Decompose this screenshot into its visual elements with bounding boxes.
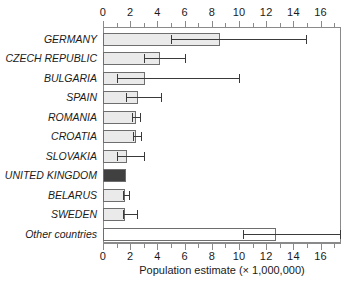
error-bar-cap bbox=[171, 35, 172, 44]
axis-tick-label: 16 bbox=[314, 6, 327, 18]
category-label: BELARUS bbox=[0, 186, 97, 206]
error-bar-cap bbox=[243, 230, 244, 239]
error-bar-line bbox=[126, 97, 161, 98]
error-bar-cap bbox=[141, 132, 142, 141]
bar bbox=[103, 130, 136, 143]
axis-tick-label: 10 bbox=[233, 6, 246, 18]
bar bbox=[103, 169, 126, 182]
chart-row: CROATIA bbox=[0, 127, 357, 147]
axis-tick-label: 16 bbox=[314, 250, 327, 262]
axis-tick-label: 12 bbox=[260, 250, 273, 262]
axis-tick bbox=[171, 244, 172, 248]
axis-tick bbox=[334, 23, 335, 27]
chart-row: SLOVAKIA bbox=[0, 147, 357, 167]
axis-tick-label: 8 bbox=[209, 6, 215, 18]
axis-tick bbox=[212, 21, 213, 27]
axis-tick bbox=[321, 21, 322, 27]
error-bar-cap bbox=[123, 210, 124, 219]
axis-tick-label: 14 bbox=[287, 6, 300, 18]
chart-row: ROMANIA bbox=[0, 108, 357, 128]
axis-tick-label: 2 bbox=[127, 6, 133, 18]
axis-tick bbox=[253, 23, 254, 27]
error-bar-cap bbox=[117, 152, 118, 161]
error-bar-cap bbox=[117, 74, 118, 83]
error-bar-cap bbox=[161, 93, 162, 102]
axis-tick bbox=[239, 21, 240, 27]
error-bar-line bbox=[117, 78, 239, 79]
error-bar-line bbox=[132, 117, 140, 118]
category-label: SPAIN bbox=[0, 88, 97, 108]
error-bar-cap bbox=[144, 152, 145, 161]
category-label: CZECH REPUBLIC bbox=[0, 49, 97, 69]
axis-tick-label: 6 bbox=[181, 250, 187, 262]
error-bar-cap bbox=[306, 35, 307, 44]
axis-tick bbox=[157, 21, 158, 27]
error-bar-cap bbox=[137, 210, 138, 219]
chart-row: BELARUS bbox=[0, 186, 357, 206]
error-bar-line bbox=[133, 136, 141, 137]
category-label: UNITED KINGDOM bbox=[0, 166, 97, 186]
category-label: BULGARIA bbox=[0, 69, 97, 89]
axis-tick-label: 8 bbox=[209, 250, 215, 262]
axis-tick bbox=[307, 23, 308, 27]
axis-tick bbox=[266, 21, 267, 27]
bar bbox=[103, 208, 125, 221]
axis-tick-label: 10 bbox=[233, 250, 246, 262]
error-bar-line bbox=[117, 156, 144, 157]
category-label: SLOVAKIA bbox=[0, 147, 97, 167]
error-bar-line bbox=[123, 214, 137, 215]
population-estimate-bar-chart: 0246810121416 0246810121416 GERMANYCZECH… bbox=[0, 0, 357, 285]
axis-tick-label: 6 bbox=[181, 6, 187, 18]
error-bar-cap bbox=[133, 132, 134, 141]
error-bar-cap bbox=[132, 113, 133, 122]
axis-tick bbox=[253, 244, 254, 248]
chart-row: SWEDEN bbox=[0, 205, 357, 225]
axis-tick-label: 2 bbox=[127, 250, 133, 262]
chart-row: Other countries bbox=[0, 225, 357, 245]
axis-tick bbox=[130, 21, 131, 27]
category-label: ROMANIA bbox=[0, 108, 97, 128]
axis-tick bbox=[171, 23, 172, 27]
axis-tick bbox=[334, 244, 335, 248]
category-label: CROATIA bbox=[0, 127, 97, 147]
bar bbox=[103, 111, 136, 124]
axis-tick-label: 4 bbox=[154, 6, 160, 18]
category-label: SWEDEN bbox=[0, 205, 97, 225]
axis-tick-label: 0 bbox=[100, 6, 106, 18]
axis-tick bbox=[280, 23, 281, 27]
axis-tick bbox=[225, 23, 226, 27]
bar bbox=[103, 189, 125, 202]
chart-row: UNITED KINGDOM bbox=[0, 166, 357, 186]
axis-tick-label: 0 bbox=[100, 250, 106, 262]
category-label: Other countries bbox=[0, 225, 97, 245]
axis-tick bbox=[225, 244, 226, 248]
error-bar-cap bbox=[185, 54, 186, 63]
error-bar-line bbox=[144, 58, 185, 59]
axis-tick bbox=[103, 21, 104, 27]
error-bar-line bbox=[243, 234, 340, 235]
axis-tick bbox=[198, 244, 199, 248]
error-bar-cap bbox=[340, 230, 341, 239]
error-bar-cap bbox=[144, 54, 145, 63]
error-bar-cap bbox=[239, 74, 240, 83]
error-bar-cap bbox=[140, 113, 141, 122]
axis-tick bbox=[307, 244, 308, 248]
error-bar-line bbox=[171, 39, 306, 40]
axis-tick-label: 4 bbox=[154, 250, 160, 262]
axis-tick bbox=[117, 244, 118, 248]
axis-tick bbox=[280, 244, 281, 248]
axis-tick-label: 12 bbox=[260, 6, 273, 18]
axis-tick bbox=[144, 244, 145, 248]
axis-tick-label: 14 bbox=[287, 250, 300, 262]
error-bar-cap bbox=[126, 93, 127, 102]
category-label: GERMANY bbox=[0, 30, 97, 50]
x-axis-title: Population estimate (× 1,000,000) bbox=[103, 264, 341, 276]
axis-tick bbox=[144, 23, 145, 27]
axis-tick bbox=[185, 21, 186, 27]
axis-tick bbox=[293, 21, 294, 27]
top-axis-line bbox=[103, 27, 341, 28]
axis-tick bbox=[198, 23, 199, 27]
chart-row: CZECH REPUBLIC bbox=[0, 49, 357, 69]
error-bar-cap bbox=[123, 191, 124, 200]
axis-tick bbox=[117, 23, 118, 27]
